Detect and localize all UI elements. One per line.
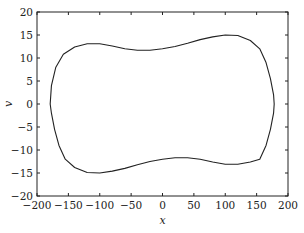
x-tick-label: −100 <box>85 199 114 211</box>
x-tick-label: 100 <box>215 199 235 211</box>
y-tick-label: 5 <box>26 75 33 87</box>
chart: −200−150−100−50050100150200 −20−15−10−50… <box>0 0 304 233</box>
x-axis: −200−150−100−50050100150200 <box>23 12 298 211</box>
y-tick-label: 10 <box>20 52 33 64</box>
y-axis: −20−15−10−505101520 <box>11 6 288 202</box>
y-axis-label: v <box>2 100 15 107</box>
y-tick-label: −15 <box>11 167 33 179</box>
x-tick-label: 50 <box>187 199 200 211</box>
x-axis-label: x <box>159 214 166 227</box>
x-tick-label: 0 <box>159 199 166 211</box>
y-tick-label: −10 <box>11 144 33 156</box>
y-tick-label: 0 <box>26 98 33 110</box>
y-tick-label: 15 <box>20 29 33 41</box>
y-tick-label: −20 <box>11 190 33 202</box>
y-tick-label: −5 <box>18 121 33 133</box>
series-line <box>50 35 274 173</box>
x-tick-label: −50 <box>120 199 142 211</box>
y-tick-label: 20 <box>20 6 33 18</box>
series-group <box>50 35 274 173</box>
x-tick-label: −150 <box>54 199 83 211</box>
x-tick-label: 150 <box>247 199 267 211</box>
plot-frame <box>37 12 288 196</box>
x-tick-label: 200 <box>278 199 298 211</box>
